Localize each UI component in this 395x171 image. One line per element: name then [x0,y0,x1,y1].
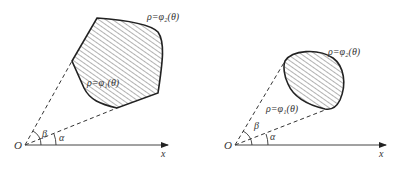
alpha-label: α [270,131,276,142]
outer-curve-label: ρ=φ₂(θ) [327,46,361,58]
origin-label: O [224,139,232,151]
polygon-region [72,18,163,108]
right-diagram: O x β α ρ=φ₂(θ) ρ=φ₁(θ) [224,46,386,159]
origin-label: O [14,139,22,151]
ray-beta [25,61,72,145]
beta-label: β [41,128,47,139]
x-axis-label: x [160,148,166,159]
left-diagram: O x β α ρ=φ₂(θ) ρ=φ₁(θ) [14,11,180,159]
beta-arc [33,131,41,145]
beta-arc [243,131,252,145]
ray-alpha [235,110,325,145]
ray-alpha [25,108,117,145]
x-axis-label: x [378,148,384,159]
alpha-arc [54,134,56,145]
outer-curve-label: ρ=φ₂(θ) [146,11,180,23]
inner-curve-label: ρ=φ₁(θ) [265,103,299,115]
inner-curve-label: ρ=φ₁(θ) [86,77,120,89]
polar-region-diagrams: O x β α ρ=φ₂(θ) ρ=φ₁(θ) O x β α ρ=φ₂(θ) … [0,0,395,171]
alpha-label: α [59,132,65,143]
alpha-arc [266,134,268,145]
oval-region [284,52,344,110]
beta-label: β [253,120,259,131]
